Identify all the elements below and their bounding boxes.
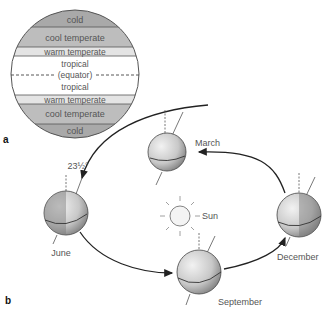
orbit-arrow-september-to-december xyxy=(224,238,285,269)
band-label-tropical-north: tropical xyxy=(61,59,89,69)
band-label-tropical-south: tropical xyxy=(61,82,89,92)
band-label-cold-south: cold xyxy=(67,126,84,136)
sun-label: Sun xyxy=(202,211,218,221)
month-label-march: March xyxy=(195,138,220,148)
band-label-warm-temperate-south: warm temperate xyxy=(43,95,106,105)
earth-september xyxy=(177,233,221,305)
equator-label: (equator) xyxy=(58,70,93,80)
month-label-december: December xyxy=(277,252,319,262)
panel-label-b: b xyxy=(5,295,11,306)
band-label-warm-temperate-north: warm temperate xyxy=(43,47,106,57)
climate-zones-globe: cold cool temperate warm temperate tropi… xyxy=(10,10,140,144)
month-label-june: June xyxy=(51,248,71,258)
earth-december xyxy=(277,173,321,246)
orbit-arrow-december-to-march xyxy=(199,152,285,193)
band-label-cold-north: cold xyxy=(67,15,84,25)
orbit-arrow-june-to-september xyxy=(80,232,172,273)
band-label-cool-temperate-south: cool temperate xyxy=(45,109,105,119)
seasons-diagram: cold cool temperate warm temperate tropi… xyxy=(0,0,333,325)
month-label-september: September xyxy=(218,297,262,307)
panel-label-a: a xyxy=(3,134,9,145)
sun-icon xyxy=(160,196,200,236)
band-label-cool-temperate-north: cool temperate xyxy=(45,33,105,43)
tilt-angle-label: 23½° xyxy=(67,161,89,171)
earth-march xyxy=(148,110,186,185)
